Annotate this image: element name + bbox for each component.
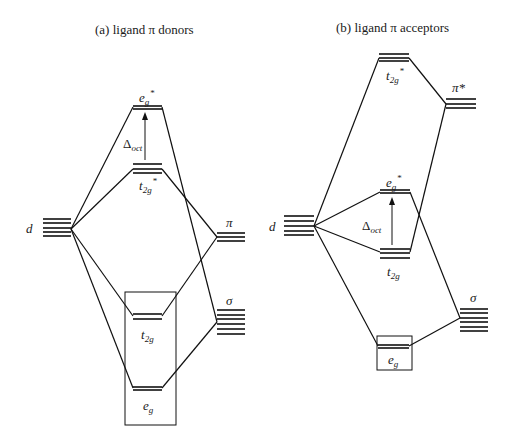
a-t2g-label: t2g	[141, 328, 154, 344]
a-eg-star-label: eg*	[139, 89, 155, 107]
a-pi-levels	[217, 233, 245, 241]
b-d-levels	[284, 216, 314, 235]
b-eg-star-label: eg*	[386, 174, 402, 192]
a-t2g-level	[133, 314, 162, 319]
a-d-label: d	[26, 222, 33, 235]
mo-diagram-figure: (a) ligand π donors d eg* Δoct t2g* π σ …	[0, 0, 510, 442]
panel-a-title: (a) ligand π donors	[95, 23, 194, 36]
a-eg-level	[133, 387, 162, 390]
a-sigma-label: σ	[226, 294, 232, 307]
a-t2g-star-level	[133, 164, 162, 173]
a-eg-label: eg	[143, 399, 153, 415]
b-pi-star-levels	[446, 99, 476, 108]
b-pi-star-label: π*	[452, 81, 465, 94]
b-delta-oct-label: Δoct	[362, 219, 381, 235]
a-correlation-lines	[71, 107, 217, 388]
b-sigma-label: σ	[470, 291, 476, 304]
b-eg-label: eg	[388, 353, 398, 369]
diagram-lines	[0, 0, 510, 442]
b-t2g-star-label: t2g*	[386, 67, 404, 85]
b-sigma-levels	[460, 309, 488, 331]
b-correlation-lines	[314, 58, 460, 346]
a-t2g-star-label: t2g*	[139, 177, 157, 195]
b-t2g-label: t2g	[387, 265, 400, 281]
a-d-levels	[43, 219, 71, 236]
panel-b-title: (b) ligand π acceptors	[336, 21, 449, 34]
b-d-label: d	[269, 220, 276, 233]
a-pi-label: π	[226, 216, 233, 229]
a-sigma-levels	[217, 310, 245, 334]
b-t2g-star-level	[379, 54, 409, 61]
b-eg-level	[378, 345, 409, 348]
b-t2g-level	[380, 249, 410, 258]
a-delta-oct-label: Δoct	[123, 137, 142, 153]
